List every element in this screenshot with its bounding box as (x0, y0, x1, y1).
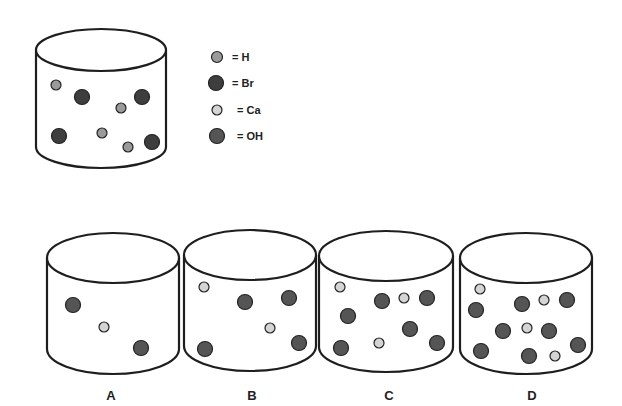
particle-oh-icon (420, 291, 435, 306)
particle-ca-icon (335, 282, 345, 292)
legend-oh-icon (210, 129, 225, 144)
option-label: A (106, 388, 116, 403)
legend-br-icon (209, 76, 224, 91)
legend-item-oh: = OH (210, 129, 264, 144)
legend-item-br: = Br (209, 76, 255, 91)
legend-label: = Br (232, 77, 254, 89)
legend-item-h: = H (212, 51, 250, 63)
particle-oh-icon (474, 344, 489, 359)
particle-oh-icon (571, 338, 586, 353)
particle-oh-icon (375, 294, 390, 309)
particle-oh-icon (238, 295, 253, 310)
legend-label: = Ca (237, 104, 261, 116)
particle-oh-icon (560, 293, 575, 308)
option-beaker-a[interactable]: A (47, 233, 179, 403)
particle-oh-icon (515, 297, 530, 312)
particle-oh-icon (430, 336, 445, 351)
option-label: D (527, 388, 536, 403)
particle-ca-icon (199, 282, 209, 292)
reference-beaker (36, 29, 166, 168)
particle-ca-icon (374, 338, 384, 348)
particle-ca-icon (539, 295, 549, 305)
particle-h-icon (51, 80, 61, 90)
beaker-rim (319, 231, 453, 281)
particle-br-icon (145, 135, 160, 150)
option-beaker-d[interactable]: D (460, 233, 592, 403)
particle-oh-icon (134, 341, 149, 356)
option-label: C (384, 388, 394, 403)
beaker-rim (36, 29, 166, 71)
legend-item-ca: = Ca (212, 104, 261, 116)
particle-h-icon (123, 142, 133, 152)
option-beaker-c[interactable]: C (319, 231, 453, 403)
particle-oh-icon (334, 341, 349, 356)
particle-ca-icon (475, 284, 485, 294)
legend: = H= Br= Ca= OH (209, 51, 264, 144)
legend-label: = OH (237, 130, 263, 142)
particle-oh-icon (469, 303, 484, 318)
particle-br-icon (52, 129, 67, 144)
legend-label: = H (232, 51, 249, 63)
beaker-rim (460, 233, 592, 283)
beaker-rim (184, 230, 316, 280)
particle-oh-icon (496, 324, 511, 339)
particle-br-icon (135, 90, 150, 105)
particle-oh-icon (542, 324, 557, 339)
particle-oh-icon (403, 322, 418, 337)
particle-oh-icon (522, 349, 537, 364)
option-beaker-b[interactable]: B (184, 230, 316, 403)
particle-oh-icon (292, 336, 307, 351)
particle-oh-icon (341, 309, 356, 324)
particle-ca-icon (550, 351, 560, 361)
particle-h-icon (97, 128, 107, 138)
diagram-canvas: = H= Br= Ca= OH A B C D (0, 0, 622, 406)
particle-br-icon (75, 90, 90, 105)
particle-ca-icon (522, 323, 532, 333)
particle-oh-icon (282, 291, 297, 306)
option-label: B (247, 388, 256, 403)
particle-oh-icon (66, 298, 81, 313)
legend-h-icon (212, 52, 223, 63)
particle-ca-icon (265, 323, 275, 333)
particle-h-icon (116, 103, 126, 113)
particle-oh-icon (198, 342, 213, 357)
legend-ca-icon (212, 105, 222, 115)
particle-ca-icon (399, 293, 409, 303)
beaker-rim (47, 233, 179, 283)
particle-ca-icon (99, 322, 109, 332)
